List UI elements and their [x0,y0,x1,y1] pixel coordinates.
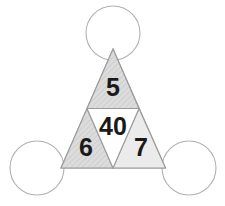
right-triangle-value: 7 [134,133,148,161]
center-triangle-value: 40 [99,112,127,140]
triangle-puzzle-figure: 5 6 7 40 [0,0,225,206]
bottom-right-circle[interactable] [162,141,216,195]
bottom-left-circle[interactable] [10,141,64,195]
puzzle-diagram: 5 6 7 40 [0,0,225,206]
left-triangle-value: 6 [79,133,93,161]
top-triangle-value: 5 [106,73,120,101]
